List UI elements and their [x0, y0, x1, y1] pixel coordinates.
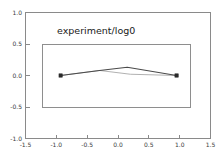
x-tick-label: 1.5	[206, 141, 216, 148]
y-axis-tick-labels: 1.0 0.5 0.0 -0.5 -1.0	[10, 9, 22, 142]
y-tick-label: 0.5	[12, 40, 22, 47]
chart-plot[interactable]: 1.0 0.5 0.0 -0.5 -1.0 -1.5 -1.0 -0.5 0.0…	[0, 0, 223, 156]
series-data-point-marker	[175, 74, 178, 77]
figure-canvas: 1.0 0.5 0.0 -0.5 -1.0 -1.5 -1.0 -0.5 0.0…	[0, 0, 223, 156]
x-axis-tick-labels: -1.5 -1.0 -0.5 0.0 0.5 1.0 1.5	[20, 141, 216, 148]
series-line-series-a	[61, 67, 177, 75]
y-tick-label: -0.5	[10, 103, 22, 110]
y-tick-label: 0.0	[12, 72, 22, 79]
chart-title: experiment/log0	[57, 25, 135, 36]
x-tick-label: 1.0	[175, 141, 185, 148]
x-tick-label: 0.0	[113, 141, 123, 148]
x-tick-marks	[26, 135, 211, 139]
x-tick-label: -1.5	[20, 141, 32, 148]
x-tick-label: 0.5	[144, 141, 154, 148]
series-data-point-marker	[59, 74, 62, 77]
x-tick-label: -0.5	[81, 141, 93, 148]
y-tick-marks	[26, 13, 30, 139]
x-tick-label: -1.0	[50, 141, 62, 148]
y-tick-label: 1.0	[12, 9, 22, 16]
